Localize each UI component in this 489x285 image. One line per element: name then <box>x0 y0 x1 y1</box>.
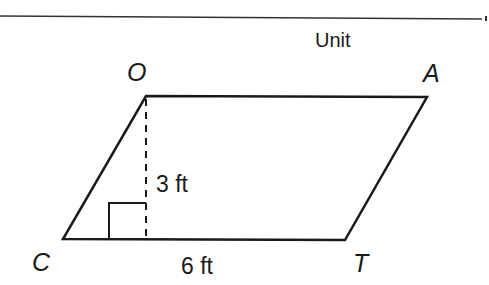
header-rule <box>0 16 482 19</box>
vertex-label-t: T <box>353 249 370 277</box>
header-rule-end-mark <box>485 16 487 21</box>
vertex-label-c: C <box>32 248 51 276</box>
parallelogram-figure: Unit O A T C 3 ft 6 ft <box>0 0 489 285</box>
right-angle-marker <box>109 203 146 239</box>
parallelogram-outline <box>63 96 427 240</box>
unit-label: Unit <box>315 29 351 51</box>
diagram-canvas: Unit O A T C 3 ft 6 ft <box>0 0 489 285</box>
vertex-label-o: O <box>127 58 146 86</box>
vertex-label-a: A <box>421 59 440 87</box>
height-measure-label: 3 ft <box>156 171 189 197</box>
base-measure-label: 6 ft <box>181 253 214 279</box>
